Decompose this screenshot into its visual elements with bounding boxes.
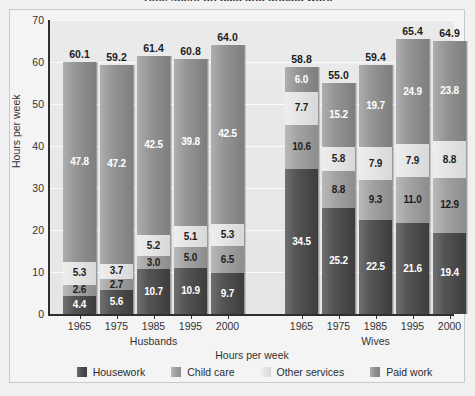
bar[interactable]: 34.510.67.76.058.8 xyxy=(285,67,318,314)
bar-segment-housework[interactable]: 25.2 xyxy=(322,208,355,314)
segment-value-label: 39.8 xyxy=(174,137,207,147)
y-tick-label: 30 xyxy=(32,182,44,194)
bar-segment-other[interactable]: 5.3 xyxy=(63,262,96,284)
y-tick-label: 50 xyxy=(32,98,44,110)
bar-segment-paid[interactable]: 47.8 xyxy=(63,62,96,263)
legend-item-childcare[interactable]: Child care xyxy=(171,366,234,378)
segment-value-label: 21.6 xyxy=(396,264,429,274)
segment-value-label: 7.9 xyxy=(396,156,429,166)
bar-segment-paid[interactable]: 19.7 xyxy=(359,65,392,148)
bar-segment-other[interactable]: 7.7 xyxy=(285,92,318,124)
bar[interactable]: 10.95.05.139.860.8 xyxy=(174,59,207,314)
x-tick-label-wives-2000: 2000 xyxy=(427,320,472,332)
segment-value-label: 24.9 xyxy=(396,87,429,97)
chart-legend: HouseworkChild careOther servicesPaid wo… xyxy=(48,366,461,378)
bar-segment-paid[interactable]: 47.2 xyxy=(100,65,133,263)
bar-total-label: 55.0 xyxy=(315,69,362,81)
bar-segment-other[interactable]: 3.7 xyxy=(100,264,133,280)
bar-segment-childcare[interactable]: 3.0 xyxy=(137,256,170,269)
bar-segment-other[interactable]: 5.1 xyxy=(174,226,207,247)
legend-swatch-other xyxy=(261,367,271,377)
bar-segment-childcare[interactable]: 5.0 xyxy=(174,247,207,268)
bar-segment-housework[interactable]: 10.9 xyxy=(174,268,207,314)
bar[interactable]: 10.73.05.242.561.4 xyxy=(137,56,170,314)
y-tick-label: 70 xyxy=(32,14,44,26)
segment-value-label: 10.9 xyxy=(174,286,207,296)
bar-segment-childcare[interactable]: 9.3 xyxy=(359,180,392,219)
legend-swatch-childcare xyxy=(171,367,181,377)
bar-segment-paid[interactable]: 6.0 xyxy=(285,67,318,92)
segment-value-label: 5.8 xyxy=(322,154,355,164)
y-axis-label: Hours per week xyxy=(10,94,22,168)
bar-segment-housework[interactable]: 4.4 xyxy=(63,296,96,314)
bar-segment-housework[interactable]: 9.7 xyxy=(211,273,244,314)
bar-segment-other[interactable]: 5.8 xyxy=(322,147,355,171)
bar-segment-childcare[interactable]: 6.5 xyxy=(211,246,244,273)
segment-value-label: 8.8 xyxy=(322,185,355,195)
segment-value-label: 6.5 xyxy=(211,255,244,265)
segment-value-label: 15.2 xyxy=(322,110,355,120)
segment-value-label: 9.7 xyxy=(211,289,244,299)
bar[interactable]: 25.28.85.815.255.0 xyxy=(322,83,355,314)
bar-segment-housework[interactable]: 10.7 xyxy=(137,269,170,314)
bar-segment-other[interactable]: 7.9 xyxy=(396,144,429,177)
segment-value-label: 42.5 xyxy=(137,140,170,150)
bar[interactable]: 22.59.37.919.759.4 xyxy=(359,65,392,314)
bar-segment-housework[interactable]: 19.4 xyxy=(433,233,466,314)
bar-segment-childcare[interactable]: 10.6 xyxy=(285,125,318,170)
legend-item-housework[interactable]: Housework xyxy=(77,366,146,378)
segment-value-label: 2.6 xyxy=(63,285,96,295)
bar-segment-childcare[interactable]: 8.8 xyxy=(322,171,355,208)
bar[interactable]: 21.611.07.924.965.4 xyxy=(396,39,429,314)
bar-total-label: 64.0 xyxy=(204,31,251,43)
chart-figure: Time spent on paid and unpaid work 01020… xyxy=(0,0,475,396)
legend-label: Housework xyxy=(93,366,146,378)
bar-segment-childcare[interactable]: 2.7 xyxy=(100,279,133,290)
bar-segment-other[interactable]: 7.9 xyxy=(359,147,392,180)
segment-value-label: 4.4 xyxy=(63,300,96,310)
legend-item-other[interactable]: Other services xyxy=(261,366,345,378)
bar-segment-paid[interactable]: 23.8 xyxy=(433,41,466,141)
segment-value-label: 23.8 xyxy=(433,86,466,96)
bar-segment-paid[interactable]: 39.8 xyxy=(174,59,207,226)
segment-value-label: 5.3 xyxy=(211,230,244,240)
bar-total-label: 58.8 xyxy=(278,53,325,65)
bar-total-label: 60.8 xyxy=(167,45,214,57)
legend-label: Paid work xyxy=(386,366,432,378)
bar[interactable]: 9.76.55.342.564.0 xyxy=(211,45,244,314)
x-tick-mark xyxy=(191,314,192,319)
segment-value-label: 42.5 xyxy=(211,129,244,139)
legend-label: Other services xyxy=(277,366,345,378)
legend-swatch-paid xyxy=(370,367,380,377)
bar-segment-childcare[interactable]: 11.0 xyxy=(396,177,429,223)
bar-segment-paid[interactable]: 42.5 xyxy=(137,56,170,235)
bar-segment-paid[interactable]: 42.5 xyxy=(211,45,244,224)
segment-value-label: 5.0 xyxy=(174,253,207,263)
segment-value-label: 9.3 xyxy=(359,195,392,205)
bar-segment-housework[interactable]: 22.5 xyxy=(359,220,392,315)
bar-segment-paid[interactable]: 24.9 xyxy=(396,39,429,144)
segment-value-label: 47.8 xyxy=(63,157,96,167)
bar[interactable]: 4.42.65.347.860.1 xyxy=(63,62,96,314)
y-tick-label: 40 xyxy=(32,140,44,152)
bar-segment-childcare[interactable]: 2.6 xyxy=(63,285,96,296)
segment-value-label: 3.0 xyxy=(137,258,170,268)
bar-segment-housework[interactable]: 21.6 xyxy=(396,223,429,314)
gridline xyxy=(50,20,454,21)
bar[interactable]: 5.62.73.747.259.2 xyxy=(100,65,133,314)
bar-segment-housework[interactable]: 5.6 xyxy=(100,290,133,314)
plot-area: 010203040506070 4.42.65.347.860.15.62.73… xyxy=(48,20,454,316)
y-tick-label: 60 xyxy=(32,56,44,68)
bar-segment-childcare[interactable]: 12.9 xyxy=(433,178,466,232)
bar-segment-housework[interactable]: 34.5 xyxy=(285,169,318,314)
bar-segment-other[interactable]: 5.2 xyxy=(137,235,170,257)
segment-value-label: 8.8 xyxy=(433,155,466,165)
group-label-husbands: Husbands xyxy=(63,335,244,347)
bar[interactable]: 19.412.98.823.864.9 xyxy=(433,41,466,314)
bar-segment-other[interactable]: 5.3 xyxy=(211,224,244,246)
segment-value-label: 6.0 xyxy=(285,75,318,85)
chart-title: Time spent on paid and unpaid work xyxy=(0,0,475,1)
bar-segment-other[interactable]: 8.8 xyxy=(433,141,466,178)
legend-item-paid[interactable]: Paid work xyxy=(370,366,432,378)
bar-segment-paid[interactable]: 15.2 xyxy=(322,83,355,147)
